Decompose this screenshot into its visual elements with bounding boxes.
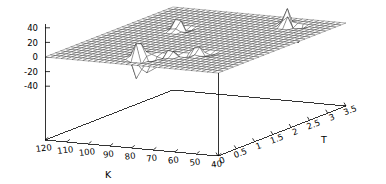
- x-tick-label-0: 120: [35, 142, 52, 154]
- mesh-surface: [45, 7, 346, 78]
- x-tick-7: [196, 151, 199, 154]
- x-tick-label-5: 70: [146, 152, 158, 163]
- x-tick-label-4: 80: [124, 150, 136, 161]
- x-tick-label-1: 110: [57, 144, 74, 156]
- z-tick-label-0: 40: [27, 23, 38, 33]
- z-tick-label-1: 20: [27, 38, 38, 48]
- y-tick-label-7: 3.5: [342, 103, 358, 117]
- y-tick-label-1: 0.5: [232, 146, 248, 160]
- y-tick-label-3: 1.5: [269, 132, 285, 146]
- surface-plot-canvas: 40200-20-4012011010090807060504000.511.5…: [0, 0, 386, 184]
- x-tick-label-2: 100: [78, 146, 95, 158]
- x-tick-1: [67, 139, 70, 142]
- y-tick-label-6: 3: [327, 112, 336, 123]
- x-tick-3: [110, 143, 113, 146]
- x-tick-6: [175, 149, 178, 152]
- x-tick-2: [88, 141, 91, 144]
- z-tick-label-2: 0: [33, 52, 38, 62]
- x-tick-label-7: 50: [189, 156, 201, 167]
- y-tick-label-2: 1: [254, 140, 263, 151]
- x-tick-label-6: 60: [167, 154, 179, 165]
- x-tick-5: [153, 147, 156, 150]
- z-tick-label-3: -20: [24, 67, 38, 77]
- y-tick-label-4: 2: [291, 126, 300, 137]
- surface-plot-figure: 40200-20-4012011010090807060504000.511.5…: [0, 0, 386, 184]
- x-tick-label-3: 90: [103, 148, 115, 159]
- y-axis-title: T: [320, 134, 327, 145]
- back-right-edge: [173, 90, 346, 106]
- x-tick-4: [132, 145, 135, 148]
- y-tick-label-5: 2.5: [305, 117, 321, 131]
- back-left-edge: [45, 90, 173, 140]
- x-axis-title: K: [105, 169, 112, 180]
- z-tick-label-4: -40: [24, 81, 38, 91]
